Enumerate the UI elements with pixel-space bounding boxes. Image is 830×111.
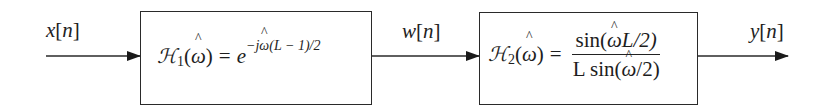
num-omega-hat: ω bbox=[607, 28, 622, 52]
omega-hat: ω bbox=[191, 44, 206, 69]
den-post: /2) bbox=[636, 57, 659, 81]
h1-exp-base: e bbox=[237, 44, 246, 69]
output-signal-index: n bbox=[766, 19, 777, 43]
h2-denominator: L sin(ω/2) bbox=[570, 55, 663, 81]
bracket-close: ] bbox=[434, 19, 441, 43]
h1-symbol: ℋ bbox=[157, 44, 177, 68]
h2-subscript: 2 bbox=[508, 52, 515, 68]
h2-symbol: ℋ bbox=[488, 42, 508, 66]
num-pre: sin( bbox=[575, 28, 607, 52]
paren-close: ) bbox=[206, 44, 213, 69]
den-omega-hat: ω bbox=[621, 57, 636, 81]
bracket-open: [ bbox=[416, 19, 423, 43]
equals-sign: = bbox=[219, 44, 231, 69]
bracket-close: ] bbox=[73, 18, 80, 42]
input-signal-label: x[n] bbox=[46, 18, 80, 43]
paren-close: ) bbox=[537, 42, 544, 67]
output-signal-label: y[n] bbox=[750, 19, 784, 44]
input-signal-name: x bbox=[46, 18, 55, 42]
h1-exp-omega-hat: ω bbox=[259, 38, 269, 54]
equals-sign: = bbox=[550, 42, 562, 67]
bracket-close: ] bbox=[777, 19, 784, 43]
paren-open: ( bbox=[515, 42, 522, 67]
block-h1-formula: ℋ1(ω) = e−jω(L − 1)/2 bbox=[157, 40, 320, 72]
h2-fraction: sin(ωL/2) L sin(ω/2) bbox=[570, 28, 663, 81]
den-pre: L sin( bbox=[573, 57, 622, 81]
paren-open: ( bbox=[184, 44, 191, 69]
intermediate-signal-name: w bbox=[402, 19, 416, 43]
h1-exp-prefix: −j bbox=[246, 38, 259, 53]
h1-exp-suffix: (L − 1)/2 bbox=[269, 38, 320, 53]
signal-wires bbox=[0, 0, 830, 111]
intermediate-signal-index: n bbox=[423, 19, 434, 43]
h1-exponent: −jω(L − 1)/2 bbox=[246, 38, 320, 54]
h2-numerator: sin(ωL/2) bbox=[572, 28, 659, 55]
intermediate-signal-label: w[n] bbox=[402, 19, 441, 44]
input-signal-index: n bbox=[62, 18, 73, 42]
omega-hat: ω bbox=[522, 42, 537, 67]
output-signal-name: y bbox=[750, 19, 759, 43]
h1-subscript: 1 bbox=[177, 54, 184, 70]
block-h2-formula: ℋ2(ω) = sin(ωL/2) L sin(ω/2) bbox=[488, 22, 663, 86]
